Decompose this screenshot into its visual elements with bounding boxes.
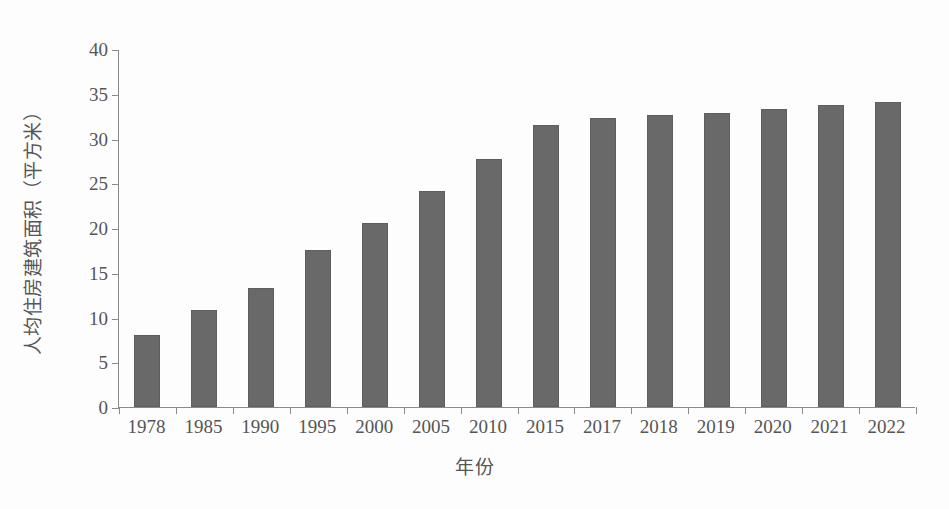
x-axis-tick-label: 2005 (412, 416, 450, 438)
bar (590, 118, 616, 407)
y-axis-tick (112, 319, 119, 320)
x-axis-title: 年份 (0, 452, 949, 479)
x-axis-tick-label: 2019 (697, 416, 735, 438)
x-axis-tick (176, 407, 177, 414)
y-axis-tick (112, 408, 119, 409)
bar (875, 102, 901, 407)
y-axis-tick-label: 0 (62, 397, 108, 419)
y-axis-tick (112, 274, 119, 275)
x-axis-tick (916, 407, 917, 414)
y-axis-tick-label: 5 (62, 352, 108, 374)
x-axis-tick (574, 407, 575, 414)
y-axis-tick (112, 95, 119, 96)
x-axis-tick (290, 407, 291, 414)
y-axis-tick (112, 50, 119, 51)
y-axis-tick (112, 363, 119, 364)
bar (533, 125, 559, 407)
x-axis-tick (404, 407, 405, 414)
x-axis-tick (347, 407, 348, 414)
bar (362, 223, 388, 407)
x-axis-tick (688, 407, 689, 414)
y-axis-tick-label: 35 (62, 84, 108, 106)
x-axis-tick (859, 407, 860, 414)
bar (818, 105, 844, 407)
y-axis-title-label: 人均住房建筑面积（平方米） (19, 101, 46, 355)
x-axis-tick-label: 2010 (469, 416, 507, 438)
bar (704, 113, 730, 407)
x-axis-tick-label: 2017 (583, 416, 621, 438)
x-axis-tick (802, 407, 803, 414)
plot-area (118, 50, 915, 408)
x-axis-tick (119, 407, 120, 414)
x-axis-tick-label: 2020 (754, 416, 792, 438)
x-axis-tick-label: 2018 (640, 416, 678, 438)
x-axis-tick (461, 407, 462, 414)
y-axis-tick-label: 15 (62, 263, 108, 285)
y-axis-tick-label: 30 (62, 129, 108, 151)
bar (248, 288, 274, 407)
x-axis-tick (518, 407, 519, 414)
bar (647, 115, 673, 407)
bar (191, 310, 217, 407)
bar (419, 191, 445, 407)
y-axis-tick (112, 229, 119, 230)
y-axis-title: 人均住房建筑面积（平方米） (14, 50, 50, 406)
bar-chart: 人均住房建筑面积（平方米） 0510152025303540 197819851… (0, 0, 949, 509)
x-axis-tick-label: 2021 (811, 416, 849, 438)
x-axis-tick-label: 2015 (526, 416, 564, 438)
x-axis-title-label: 年份 (455, 457, 495, 478)
x-axis-tick-label: 1995 (298, 416, 336, 438)
x-axis-tick-label: 1985 (184, 416, 222, 438)
bar (134, 335, 160, 407)
y-axis-tick-label: 40 (62, 39, 108, 61)
x-axis-tick (233, 407, 234, 414)
x-axis-tick (631, 407, 632, 414)
y-axis-tick-label: 10 (62, 308, 108, 330)
y-axis-tick-label: 20 (62, 218, 108, 240)
bar (305, 250, 331, 407)
bar (761, 109, 787, 407)
x-axis-tick (745, 407, 746, 414)
x-axis-tick-label: 1990 (241, 416, 279, 438)
bar (476, 159, 502, 407)
y-axis-tick-label: 25 (62, 173, 108, 195)
x-axis-tick-label: 2000 (355, 416, 393, 438)
y-axis-tick (112, 184, 119, 185)
x-axis-tick-label: 1978 (127, 416, 165, 438)
x-axis-tick-label: 2022 (868, 416, 906, 438)
y-axis-tick (112, 140, 119, 141)
